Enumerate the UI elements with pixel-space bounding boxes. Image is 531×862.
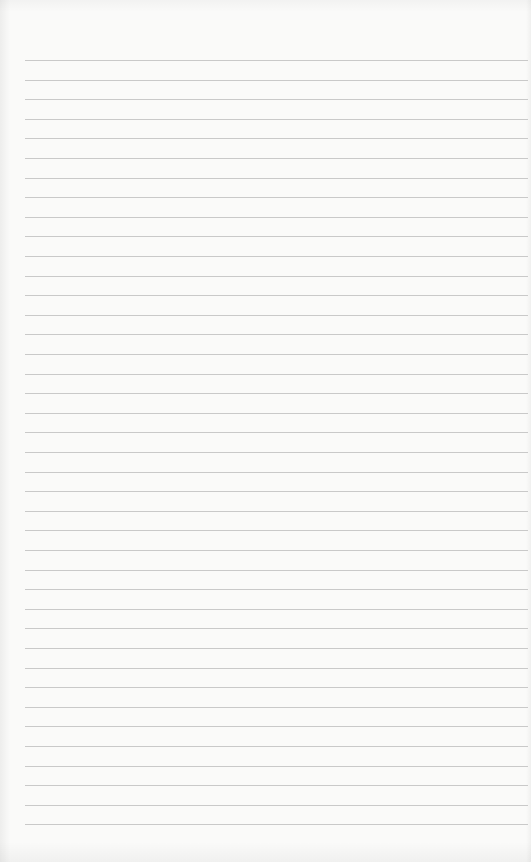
ruled-line (25, 648, 528, 649)
ruled-line (25, 178, 528, 179)
ruled-line (25, 334, 528, 335)
ruled-line (25, 511, 528, 512)
ruled-line (25, 824, 528, 825)
ruled-line (25, 276, 528, 277)
ruled-line (25, 766, 528, 767)
lined-paper-sheet (0, 0, 531, 862)
ruled-line (25, 687, 528, 688)
ruled-line (25, 256, 528, 257)
ruled-line (25, 197, 528, 198)
ruled-line (25, 80, 528, 81)
ruled-line (25, 354, 528, 355)
ruled-line (25, 60, 528, 61)
ruled-line (25, 452, 528, 453)
ruled-line (25, 609, 528, 610)
ruled-line (25, 158, 528, 159)
ruled-line (25, 315, 528, 316)
ruled-line (25, 432, 528, 433)
ruled-line (25, 550, 528, 551)
ruled-line (25, 628, 528, 629)
ruled-line (25, 119, 528, 120)
ruled-line (25, 393, 528, 394)
ruled-line (25, 472, 528, 473)
ruled-line (25, 707, 528, 708)
ruled-line (25, 530, 528, 531)
ruled-line (25, 99, 528, 100)
ruled-line (25, 295, 528, 296)
ruled-line (25, 491, 528, 492)
ruled-line (25, 589, 528, 590)
ruled-line (25, 746, 528, 747)
ruled-line (25, 236, 528, 237)
ruled-line (25, 217, 528, 218)
ruled-line (25, 668, 528, 669)
ruled-line (25, 726, 528, 727)
ruled-line (25, 570, 528, 571)
ruled-line (25, 805, 528, 806)
ruled-line (25, 374, 528, 375)
ruled-line (25, 785, 528, 786)
ruled-line (25, 138, 528, 139)
ruled-line (25, 413, 528, 414)
